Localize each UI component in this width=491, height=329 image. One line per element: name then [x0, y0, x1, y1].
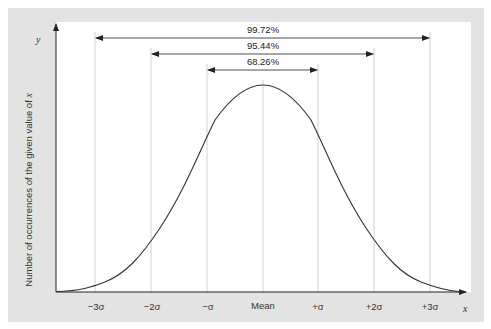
tick-mean: Mean: [251, 300, 275, 311]
y-axis-label-text: Number of occurrences of the given value…: [23, 98, 34, 287]
bell-curve: [56, 85, 462, 292]
tick-minus-sigma: −σ: [202, 301, 213, 312]
tick-plus-3-sigma: +3σ: [422, 301, 439, 312]
y-axis-variable: y: [36, 34, 40, 45]
y-axis-label: Number of occurrences of the given value…: [23, 93, 34, 286]
tick-minus-2-sigma: −2σ: [144, 301, 161, 312]
tick-plus-sigma: +σ: [312, 301, 323, 312]
range-label-68: 68.26%: [247, 56, 279, 67]
y-axis-label-var: x: [24, 93, 34, 97]
range-label-95: 95.44%: [247, 40, 279, 51]
range-label-99: 99.72%: [247, 24, 279, 35]
tick-plus-2-sigma: +2σ: [366, 301, 383, 312]
normal-distribution-chart: [0, 0, 491, 329]
x-axis-variable: x: [463, 303, 467, 314]
sigma-gridlines: [95, 32, 430, 292]
tick-minus-3-sigma: −3σ: [88, 301, 105, 312]
